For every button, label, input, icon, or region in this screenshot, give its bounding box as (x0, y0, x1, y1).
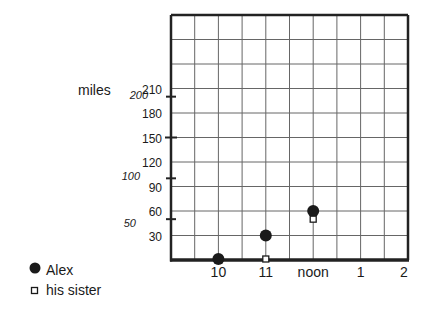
open-square-icon (32, 288, 38, 294)
y-secondary-label: 50 (124, 217, 137, 229)
alex-data-point (260, 230, 272, 242)
y-tick-label: 210 (142, 83, 162, 97)
y-tick-label: 150 (142, 132, 162, 146)
y-tick-label: 90 (149, 181, 163, 195)
y-axis-labels: 306090120150180210 (142, 83, 162, 244)
y-tick-label: 30 (149, 230, 163, 244)
sister-data-point (310, 216, 316, 222)
x-tick-label: 10 (211, 264, 227, 280)
legend-label-alex: Alex (46, 262, 73, 278)
alex-data-point (307, 205, 319, 217)
y-axis-title: miles (78, 82, 111, 98)
x-tick-label: noon (298, 264, 329, 280)
y-secondary-label: 100 (122, 170, 141, 182)
filled-circle-icon (30, 263, 41, 274)
x-tick-label: 2 (400, 264, 408, 280)
y-tick-label: 180 (142, 107, 162, 121)
x-axis-labels: 1011noon12 (211, 264, 408, 280)
sister-data-point (263, 256, 269, 262)
legend-label-sister: his sister (46, 282, 102, 298)
y-tick-label: 60 (149, 205, 163, 219)
distance-time-chart: 50100200 306090120150180210 1011noon12 m… (0, 0, 429, 310)
alex-data-point (212, 253, 224, 265)
x-tick-label: 1 (357, 264, 365, 280)
legend-item-alex: Alex (30, 262, 74, 278)
y-tick-label: 120 (142, 156, 162, 170)
legend: Alex his sister (30, 262, 102, 298)
legend-item-sister: his sister (32, 282, 102, 298)
chart-grid (171, 15, 408, 260)
x-tick-label: 11 (259, 264, 274, 280)
